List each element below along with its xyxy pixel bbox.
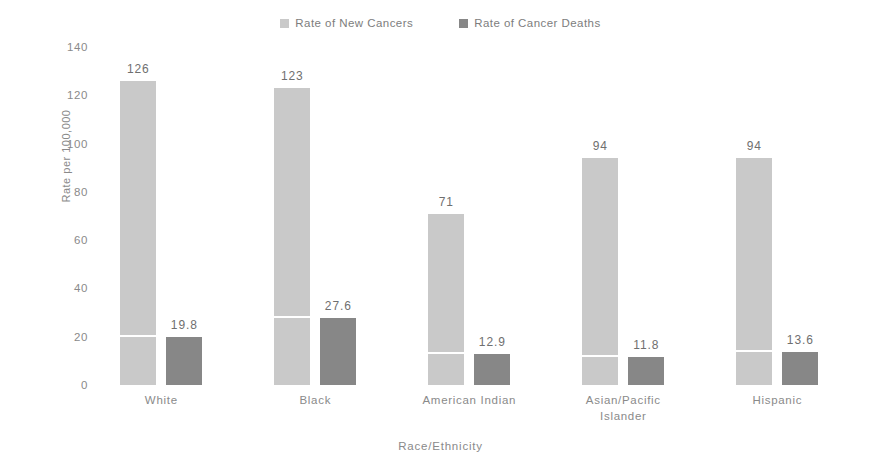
y-axis-tick: 20 bbox=[74, 331, 88, 343]
legend-label-cancer-deaths: Rate of Cancer Deaths bbox=[474, 18, 600, 30]
plot-area: 12619.812327.67112.99411.89413.6 bbox=[92, 47, 862, 385]
bar-value-label: 11.8 bbox=[633, 339, 659, 351]
y-axis-tick: 80 bbox=[74, 186, 88, 198]
x-axis-category-line: White bbox=[86, 392, 236, 408]
bar-cancer-deaths[interactable]: 13.6 bbox=[782, 352, 818, 385]
bar-value-label: 94 bbox=[593, 140, 608, 152]
y-axis-tick: 40 bbox=[74, 282, 88, 294]
legend-label-new-cancers: Rate of New Cancers bbox=[295, 18, 413, 30]
bar-value-label: 27.6 bbox=[325, 300, 352, 312]
bar-rect bbox=[782, 352, 818, 385]
bar-rect bbox=[120, 81, 156, 385]
y-axis-tick: 120 bbox=[67, 89, 88, 101]
bar-value-label: 12.9 bbox=[479, 336, 506, 348]
x-axis-category-line: Islander bbox=[548, 408, 698, 424]
bar-rect bbox=[166, 337, 202, 385]
x-axis-category-line: Black bbox=[240, 392, 390, 408]
bar-group: 9411.8 bbox=[582, 47, 664, 385]
cancer-rate-bar-chart: Rate of New Cancers Rate of Cancer Death… bbox=[0, 0, 881, 464]
bar-rect bbox=[474, 354, 510, 385]
bar-value-label: 123 bbox=[281, 70, 304, 82]
legend-item-new-cancers: Rate of New Cancers bbox=[280, 18, 413, 30]
bar-value-label: 19.8 bbox=[171, 319, 198, 331]
bar-rect bbox=[736, 158, 772, 385]
x-axis-tick-labels: WhiteBlackAmerican IndianAsian/PacificIs… bbox=[92, 392, 862, 438]
bar-cancer-deaths[interactable]: 19.8 bbox=[166, 337, 202, 385]
bar-cancer-deaths[interactable]: 12.9 bbox=[474, 354, 510, 385]
bar-gridline-artifact bbox=[582, 355, 618, 357]
bar-value-label: 71 bbox=[439, 196, 454, 208]
bar-cancer-deaths[interactable]: 11.8 bbox=[628, 357, 664, 385]
bar-group: 9413.6 bbox=[736, 47, 818, 385]
bar-new-cancers[interactable]: 71 bbox=[428, 214, 464, 385]
bar-rect bbox=[428, 214, 464, 385]
bar-group: 12327.6 bbox=[274, 47, 356, 385]
bar-rect bbox=[582, 158, 618, 385]
bar-rect bbox=[320, 318, 356, 385]
x-axis-category-label: Hispanic bbox=[702, 392, 852, 408]
x-axis-category-line: Hispanic bbox=[702, 392, 852, 408]
bar-group: 7112.9 bbox=[428, 47, 510, 385]
bar-value-label: 94 bbox=[747, 140, 762, 152]
y-axis-tick-labels: 140120100806040200 bbox=[46, 47, 88, 385]
bar-gridline-artifact bbox=[274, 316, 310, 318]
bar-group: 12619.8 bbox=[120, 47, 202, 385]
y-axis-tick: 0 bbox=[81, 379, 88, 391]
legend-item-cancer-deaths: Rate of Cancer Deaths bbox=[459, 18, 600, 30]
x-axis-category-line: Asian/Pacific bbox=[548, 392, 698, 408]
bar-new-cancers[interactable]: 94 bbox=[736, 158, 772, 385]
bar-cancer-deaths[interactable]: 27.6 bbox=[320, 318, 356, 385]
x-axis-category-label: Black bbox=[240, 392, 390, 408]
legend-swatch-cancer-deaths bbox=[459, 19, 468, 28]
bar-value-label: 126 bbox=[127, 63, 150, 75]
x-axis-title: Race/Ethnicity bbox=[0, 440, 881, 452]
bar-new-cancers[interactable]: 123 bbox=[274, 88, 310, 385]
legend-swatch-new-cancers bbox=[280, 19, 289, 28]
chart-legend: Rate of New Cancers Rate of Cancer Death… bbox=[0, 18, 881, 30]
bar-value-label: 13.6 bbox=[787, 334, 814, 346]
bar-gridline-artifact bbox=[120, 335, 156, 337]
y-axis-tick: 100 bbox=[67, 138, 88, 150]
y-axis-tick: 60 bbox=[74, 234, 88, 246]
bar-new-cancers[interactable]: 126 bbox=[120, 81, 156, 385]
x-axis-category-line: American Indian bbox=[394, 392, 544, 408]
bar-rect bbox=[274, 88, 310, 385]
bar-new-cancers[interactable]: 94 bbox=[582, 158, 618, 385]
x-axis-category-label: White bbox=[86, 392, 236, 408]
bar-rect bbox=[628, 357, 664, 385]
bar-gridline-artifact bbox=[736, 350, 772, 352]
x-axis-category-label: American Indian bbox=[394, 392, 544, 408]
x-axis-category-label: Asian/PacificIslander bbox=[548, 392, 698, 424]
y-axis-tick: 140 bbox=[67, 41, 88, 53]
bar-gridline-artifact bbox=[428, 352, 464, 354]
